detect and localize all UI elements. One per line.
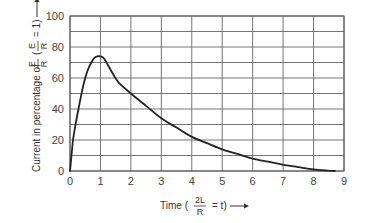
- x-tick-label: 8: [310, 175, 316, 187]
- y-tick-label: 60: [52, 72, 64, 84]
- x-tick-label: 6: [250, 175, 256, 187]
- y-label-prefix: Current in percentage of: [31, 64, 42, 172]
- y-label-frac1-den: R: [39, 60, 49, 67]
- x-label-frac-num: 2L: [195, 195, 205, 205]
- x-label-prefix: Time (: [160, 200, 189, 211]
- x-axis-ticks: 0123456789: [67, 175, 347, 187]
- x-tick-label: 0: [67, 175, 73, 187]
- y-label-suffix: = 1): [31, 19, 42, 37]
- x-tick-label: 9: [341, 175, 347, 187]
- current-curve: [70, 56, 335, 171]
- y-tick-label: 40: [52, 103, 64, 115]
- y-tick-label: 100: [46, 10, 64, 22]
- x-tick-label: 4: [189, 175, 195, 187]
- x-tick-label: 2: [128, 175, 134, 187]
- y-label-frac2-den: R: [39, 42, 49, 49]
- y-axis-label: Current in percentage of E R ( E R = 1): [27, 0, 49, 172]
- x-tick-label: 7: [280, 175, 286, 187]
- x-axis-label: Time ( 2L R = t): [160, 195, 249, 217]
- y-label-paren: (: [31, 51, 42, 55]
- x-tick-label: 5: [219, 175, 225, 187]
- y-tick-label: 20: [52, 134, 64, 146]
- chart-canvas: 020406080100 0123456789 Current in perce…: [0, 0, 366, 223]
- y-tick-label: 0: [58, 165, 64, 177]
- y-label-frac1-num: E: [27, 61, 37, 67]
- x-tick-label: 3: [158, 175, 164, 187]
- x-tick-label: 1: [97, 175, 103, 187]
- x-label-frac-den: R: [197, 207, 204, 217]
- grid: [70, 16, 344, 171]
- y-axis-ticks: 020406080100: [46, 10, 64, 177]
- x-label-suffix: = t): [212, 200, 227, 211]
- y-tick-label: 80: [52, 41, 64, 53]
- y-label-frac2-num: E: [27, 43, 37, 49]
